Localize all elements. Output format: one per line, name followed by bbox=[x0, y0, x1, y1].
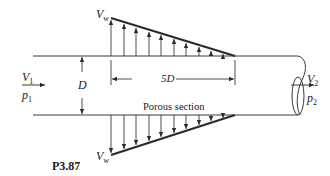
bottom-suction-profile bbox=[111, 115, 235, 155]
bottom-profile-edge bbox=[111, 115, 235, 155]
v1-label: V1 bbox=[22, 71, 33, 86]
vw-top-label: Vw bbox=[96, 8, 109, 23]
p2-subscript: 2 bbox=[313, 98, 317, 107]
top-profile-edge bbox=[111, 18, 235, 56]
pipe-diagram bbox=[0, 0, 330, 176]
length-label: 5D bbox=[160, 73, 175, 84]
v2-subscript: 2 bbox=[314, 79, 318, 88]
v1-subscript: 1 bbox=[29, 77, 33, 86]
diameter-label: D bbox=[78, 79, 87, 91]
porous-section-label: Porous section bbox=[143, 102, 205, 113]
top-suction-profile bbox=[111, 18, 235, 56]
vw-bottom-subscript: w bbox=[103, 156, 109, 165]
vw-top-subscript: w bbox=[103, 14, 109, 23]
v2-label: V2 bbox=[307, 73, 318, 88]
p2-label: p2 bbox=[307, 92, 317, 107]
p1-subscript: 1 bbox=[28, 95, 32, 104]
p1-label: p1 bbox=[22, 89, 32, 104]
vw-bottom-label: Vw bbox=[96, 150, 109, 165]
figure-caption: P3.87 bbox=[52, 160, 80, 172]
